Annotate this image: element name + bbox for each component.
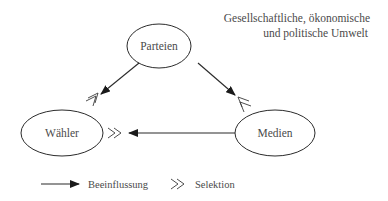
environment-line-1: Gesellschaftliche, ökonomische (224, 12, 370, 25)
legend-selection-label: Selektion (195, 179, 235, 190)
legend: Beeinflussung Selektion (41, 179, 235, 190)
arrow-parteien-to-waehler (101, 63, 139, 94)
waehler-label: Wähler (45, 127, 79, 139)
medien-label: Medien (257, 127, 292, 139)
parteien-label: Parteien (140, 40, 178, 52)
node-medien: Medien (235, 110, 315, 156)
selection-chevron-waehler-top (86, 93, 98, 106)
legend-influence-label: Beeinflussung (88, 179, 149, 190)
environment-line-2: und politische Umwelt (263, 27, 369, 40)
media-influence-diagram: Gesellschaftliche, ökonomische und polit… (0, 0, 388, 201)
node-waehler: Wähler (21, 110, 103, 156)
selection-chevron-medien-top (238, 97, 251, 112)
selection-chevron-waehler-right (108, 128, 121, 138)
environment-label: Gesellschaftliche, ökonomische und polit… (224, 12, 370, 40)
legend-selection-chevron (171, 179, 184, 189)
arrow-parteien-to-medien (198, 63, 235, 95)
node-parteien: Parteien (127, 24, 191, 68)
